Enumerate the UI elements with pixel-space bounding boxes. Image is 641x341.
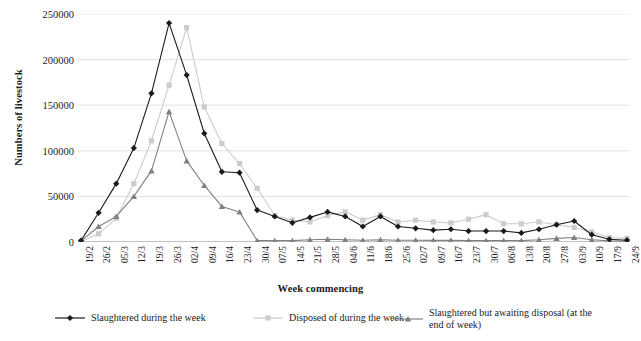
data-point-marker bbox=[483, 228, 489, 234]
data-point-marker bbox=[431, 219, 436, 224]
x-tick-label: 13/8 bbox=[525, 246, 535, 263]
x-tick-label: 11/6 bbox=[366, 246, 376, 263]
y-tick-label: 150000 bbox=[18, 100, 74, 111]
x-axis-title: Week commencing bbox=[0, 283, 641, 294]
data-point-marker bbox=[201, 130, 207, 136]
data-point-marker bbox=[202, 104, 207, 109]
y-tick-label: 0 bbox=[18, 237, 74, 248]
data-point-marker bbox=[166, 109, 172, 115]
x-tick-label: 05/3 bbox=[120, 246, 130, 263]
livestock-line-chart: Numbers of livestock 0500001000001500002… bbox=[0, 0, 641, 341]
data-point-marker bbox=[148, 168, 154, 174]
plot-area bbox=[78, 14, 630, 242]
data-point-marker bbox=[219, 169, 225, 175]
data-point-marker bbox=[483, 212, 488, 217]
data-point-marker bbox=[95, 223, 101, 229]
data-point-marker bbox=[254, 238, 260, 242]
x-tick-label: 19/3 bbox=[155, 246, 165, 263]
x-tick-label: 16/4 bbox=[225, 246, 235, 263]
data-point-marker bbox=[572, 225, 577, 230]
x-tick-label: 23/4 bbox=[243, 246, 253, 263]
data-point-marker bbox=[255, 186, 260, 191]
data-point-marker bbox=[236, 170, 242, 176]
data-point-marker bbox=[183, 158, 189, 164]
y-tick-label: 100000 bbox=[18, 145, 74, 156]
data-point-marker bbox=[448, 237, 454, 242]
data-point-marker bbox=[519, 221, 524, 226]
x-tick-label: 23/7 bbox=[472, 246, 482, 263]
legend-label: Disposed of during the week bbox=[289, 312, 404, 324]
legend-marker-icon bbox=[253, 312, 283, 324]
data-point-marker bbox=[96, 231, 101, 236]
x-tick-label: 24/9 bbox=[631, 246, 641, 263]
data-point-marker bbox=[413, 218, 418, 223]
data-point-marker bbox=[430, 227, 436, 233]
x-tick-label: 12/3 bbox=[137, 246, 147, 263]
data-point-marker bbox=[360, 218, 365, 223]
y-tick-label: 200000 bbox=[18, 54, 74, 65]
x-tick-label: 20/8 bbox=[542, 246, 552, 263]
data-point-marker bbox=[466, 217, 471, 222]
data-point-marker bbox=[67, 315, 73, 321]
data-point-marker bbox=[254, 207, 260, 213]
legend-item[interactable]: Slaughtered but awaiting disposal (at th… bbox=[393, 307, 604, 331]
data-point-marker bbox=[360, 223, 366, 229]
x-tick-label: 02/4 bbox=[190, 246, 200, 263]
x-tick-label: 16/7 bbox=[454, 246, 464, 263]
x-tick-label: 14/5 bbox=[296, 246, 306, 263]
data-point-marker bbox=[412, 237, 418, 242]
legend-item[interactable]: Slaughtered during the week bbox=[55, 312, 206, 324]
x-tick-label: 07/5 bbox=[278, 246, 288, 263]
data-point-marker bbox=[184, 72, 190, 78]
data-point-marker bbox=[131, 181, 136, 186]
x-tick-label: 30/4 bbox=[261, 246, 271, 263]
data-point-marker bbox=[219, 141, 224, 146]
data-point-marker bbox=[501, 238, 507, 242]
data-point-marker bbox=[501, 221, 506, 226]
x-tick-label: 02/7 bbox=[419, 246, 429, 263]
y-tick-label: 50000 bbox=[18, 191, 74, 202]
legend-item[interactable]: Disposed of during the week bbox=[253, 312, 404, 324]
data-point-marker bbox=[465, 238, 471, 242]
data-point-marker bbox=[430, 237, 436, 242]
x-tick-label: 17/9 bbox=[613, 246, 623, 263]
data-point-marker bbox=[166, 20, 172, 26]
data-point-marker bbox=[413, 225, 419, 231]
data-point-marker bbox=[465, 228, 471, 234]
data-point-marker bbox=[518, 238, 524, 242]
data-point-marker bbox=[131, 145, 137, 151]
x-axis-tick-labels: 19/226/205/312/319/326/302/409/416/423/4… bbox=[78, 244, 630, 284]
x-tick-label: 09/7 bbox=[437, 246, 447, 263]
data-point-marker bbox=[201, 182, 207, 188]
data-point-marker bbox=[448, 220, 453, 225]
x-tick-label: 04/6 bbox=[349, 246, 359, 263]
data-point-marker bbox=[448, 226, 454, 232]
data-point-marker bbox=[536, 226, 542, 232]
data-point-marker bbox=[113, 181, 119, 187]
data-point-marker bbox=[536, 219, 541, 224]
legend-label: Slaughtered during the week bbox=[91, 312, 206, 324]
x-tick-label: 18/6 bbox=[384, 246, 394, 263]
x-tick-label: 10/9 bbox=[595, 246, 605, 263]
x-tick-label: 26/2 bbox=[102, 246, 112, 263]
data-point-marker bbox=[166, 83, 171, 88]
x-tick-label: 09/4 bbox=[208, 246, 218, 263]
x-tick-label: 03/9 bbox=[578, 246, 588, 263]
x-tick-label: 25/6 bbox=[402, 246, 412, 263]
data-point-marker bbox=[149, 138, 154, 143]
x-tick-label: 21/5 bbox=[313, 246, 323, 263]
data-point-marker bbox=[518, 230, 524, 236]
data-point-marker bbox=[501, 228, 507, 234]
data-point-marker bbox=[272, 238, 278, 242]
y-tick-label: 250000 bbox=[18, 9, 74, 20]
data-point-marker bbox=[148, 90, 154, 96]
chart-legend: Slaughtered during the weekDisposed of d… bbox=[0, 303, 641, 341]
data-point-marker bbox=[289, 238, 295, 242]
legend-label: Slaughtered but awaiting disposal (at th… bbox=[429, 307, 604, 331]
data-point-marker bbox=[184, 25, 189, 30]
x-tick-label: 30/7 bbox=[490, 246, 500, 263]
data-point-marker bbox=[265, 315, 270, 320]
x-tick-label: 27/8 bbox=[560, 246, 570, 263]
x-tick-label: 19/2 bbox=[85, 246, 95, 263]
legend-marker-icon bbox=[393, 313, 423, 325]
